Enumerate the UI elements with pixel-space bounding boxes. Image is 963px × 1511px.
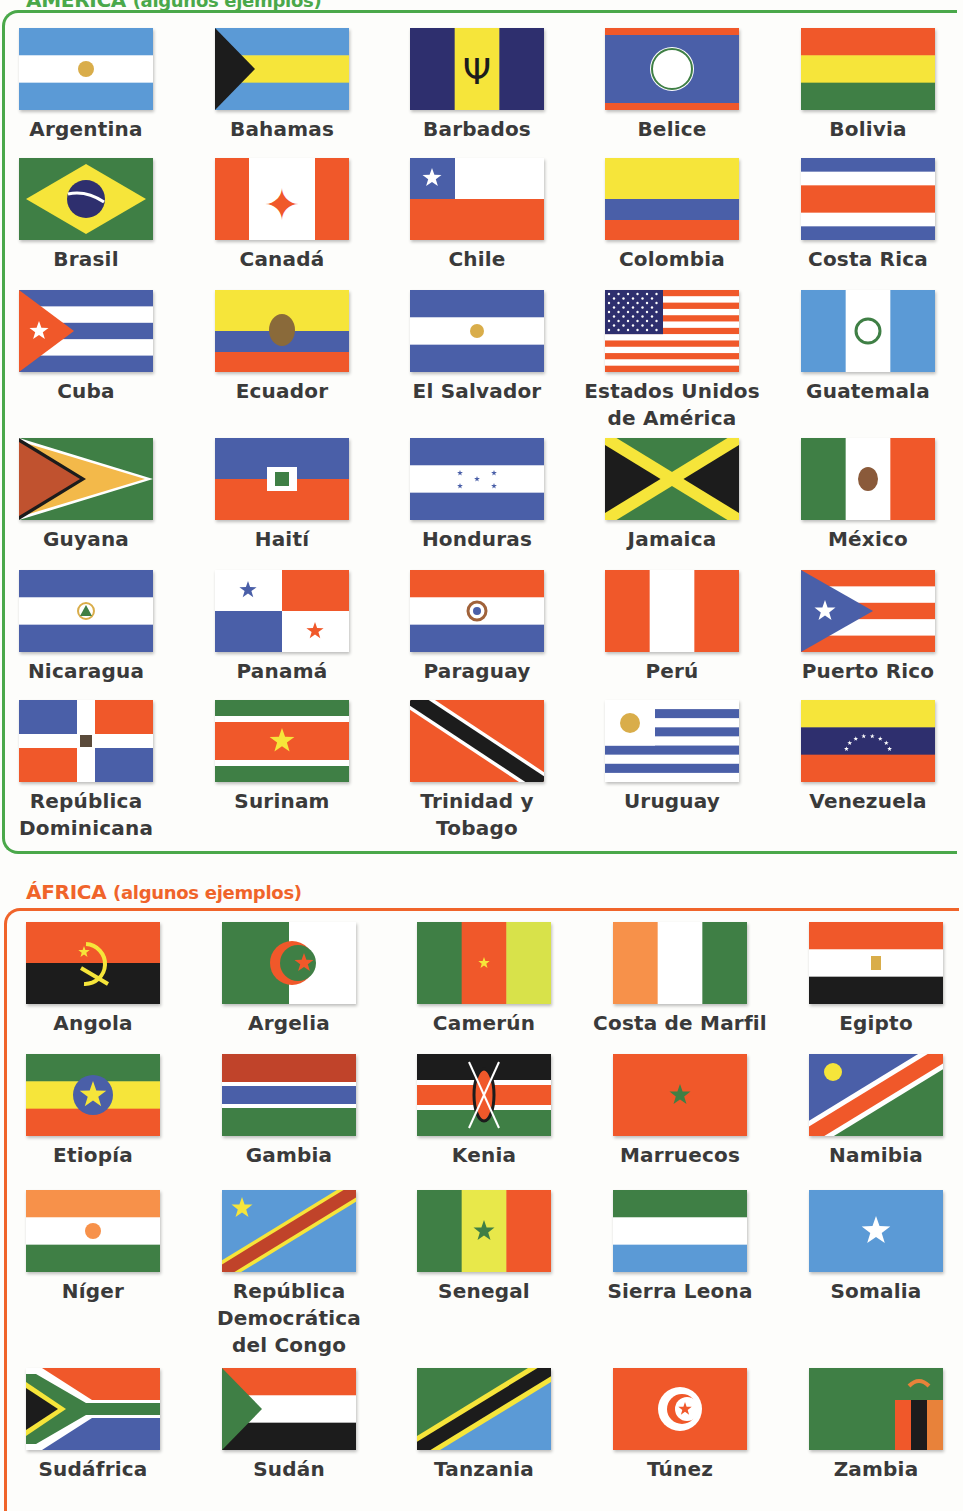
country-name: Cuba (0, 378, 176, 405)
jamaica-flag-icon (605, 438, 739, 520)
brazil-flag-icon (19, 158, 153, 240)
flag-card-suriname: Surinam (192, 700, 372, 815)
flag-card-zambia: Zambia (786, 1368, 963, 1483)
flag-card-panama: Panamá (192, 570, 372, 685)
usa-flag-icon (605, 290, 739, 372)
flag-card-trinidad-tobago: Trinidad y Tobago (387, 700, 567, 842)
chile-flag-icon (410, 158, 544, 240)
flag-card-argentina: Argentina (0, 28, 176, 143)
flag-card-tanzania: Tanzania (394, 1368, 574, 1483)
sudan-flag-icon (222, 1368, 356, 1450)
flag-card-jamaica: Jamaica (582, 438, 762, 553)
senegal-flag-icon (417, 1190, 551, 1272)
flag-card-usa: Estados Unidos de América (582, 290, 762, 432)
gambia-flag-icon (222, 1054, 356, 1136)
country-name: Sudáfrica (3, 1456, 183, 1483)
country-name: Túnez (590, 1456, 770, 1483)
honduras-flag-icon (410, 438, 544, 520)
country-name: Perú (582, 658, 762, 685)
flag-card-mexico: México (778, 438, 958, 553)
flag-card-costa-rica: Costa Rica (778, 158, 958, 273)
flag-card-south-africa: Sudáfrica (3, 1368, 183, 1483)
country-name: Zambia (786, 1456, 963, 1483)
country-name: Panamá (192, 658, 372, 685)
country-name: Senegal (394, 1278, 574, 1305)
flag-card-dominican-republic: República Dominicana (0, 700, 176, 842)
flag-card-peru: Perú (582, 570, 762, 685)
country-name: Surinam (192, 788, 372, 815)
flag-card-venezuela: Venezuela (778, 700, 958, 815)
dr-congo-flag-icon (222, 1190, 356, 1272)
peru-flag-icon (605, 570, 739, 652)
flag-card-morocco: Marruecos (590, 1054, 770, 1169)
ecuador-flag-icon (215, 290, 349, 372)
tunisia-flag-icon (613, 1368, 747, 1450)
flag-card-egypt: Egipto (786, 922, 963, 1037)
country-name: Estados Unidos de América (582, 378, 762, 432)
flag-card-uruguay: Uruguay (582, 700, 762, 815)
zambia-flag-icon (809, 1368, 943, 1450)
country-name: Costa Rica (778, 246, 958, 273)
country-name: República Democrática del Congo (199, 1278, 379, 1359)
country-name: Guatemala (778, 378, 958, 405)
flag-card-barbados: ΨBarbados (387, 28, 567, 143)
flag-card-ethiopia: Etiopía (3, 1054, 183, 1169)
tanzania-flag-icon (417, 1368, 551, 1450)
country-name: Angola (3, 1010, 183, 1037)
bolivia-flag-icon (801, 28, 935, 110)
haiti-flag-icon (215, 438, 349, 520)
country-name: Marruecos (590, 1142, 770, 1169)
country-name: Somalia (786, 1278, 963, 1305)
country-name: Egipto (786, 1010, 963, 1037)
section-title-africa: ÁFRICA (algunos ejemplos) (26, 880, 302, 904)
egypt-flag-icon (809, 922, 943, 1004)
cameroon-flag-icon (417, 922, 551, 1004)
flag-card-senegal: Senegal (394, 1190, 574, 1305)
section-title-text: ÁFRICA (26, 880, 106, 904)
uruguay-flag-icon (605, 700, 739, 782)
svg-text:✦: ✦ (264, 179, 301, 230)
angola-flag-icon (26, 922, 160, 1004)
puerto-rico-flag-icon (801, 570, 935, 652)
country-name: Argelia (199, 1010, 379, 1037)
country-name: Haití (192, 526, 372, 553)
country-name: Bolivia (778, 116, 958, 143)
flag-card-namibia: Namibia (786, 1054, 963, 1169)
flag-card-somalia: Somalia (786, 1190, 963, 1305)
flag-card-niger: Níger (3, 1190, 183, 1305)
flag-card-honduras: Honduras (387, 438, 567, 553)
guatemala-flag-icon (801, 290, 935, 372)
belize-flag-icon (605, 28, 739, 110)
guyana-flag-icon (19, 438, 153, 520)
flag-card-angola: Angola (3, 922, 183, 1037)
country-name: Venezuela (778, 788, 958, 815)
flag-card-bahamas: Bahamas (192, 28, 372, 143)
flag-card-nicaragua: Nicaragua (0, 570, 176, 685)
flag-card-belize: Belice (582, 28, 762, 143)
country-name: Chile (387, 246, 567, 273)
country-name: Trinidad y Tobago (387, 788, 567, 842)
country-name: Jamaica (582, 526, 762, 553)
country-name: Barbados (387, 116, 567, 143)
mexico-flag-icon (801, 438, 935, 520)
south-africa-flag-icon (26, 1368, 160, 1450)
country-name: México (778, 526, 958, 553)
costa-rica-flag-icon (801, 158, 935, 240)
namibia-flag-icon (809, 1054, 943, 1136)
sierra-leone-flag-icon (613, 1190, 747, 1272)
country-name: Uruguay (582, 788, 762, 815)
nicaragua-flag-icon (19, 570, 153, 652)
country-name: Puerto Rico (778, 658, 958, 685)
panama-flag-icon (215, 570, 349, 652)
cuba-flag-icon (19, 290, 153, 372)
flag-card-tunisia: Túnez (590, 1368, 770, 1483)
niger-flag-icon (26, 1190, 160, 1272)
somalia-flag-icon (809, 1190, 943, 1272)
country-name: Paraguay (387, 658, 567, 685)
ethiopia-flag-icon (26, 1054, 160, 1136)
section-subtitle: (algunos ejemplos) (113, 882, 302, 903)
venezuela-flag-icon (801, 700, 935, 782)
country-name: Sierra Leona (590, 1278, 770, 1305)
flag-card-dr-congo: República Democrática del Congo (199, 1190, 379, 1359)
morocco-flag-icon (613, 1054, 747, 1136)
